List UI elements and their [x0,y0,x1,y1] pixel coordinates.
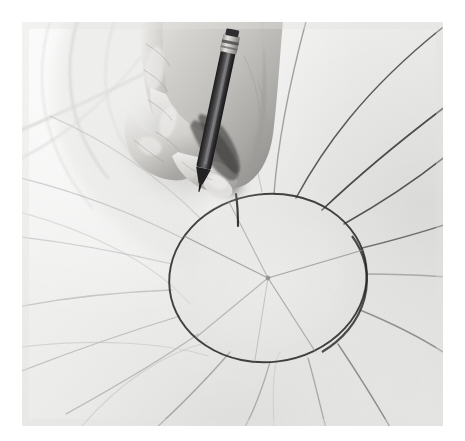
photograph-canvas [22,22,443,426]
film-grain [22,22,443,426]
photo-page: Close-up black-and-white photograph of a… [0,0,465,441]
photograph [22,22,443,426]
